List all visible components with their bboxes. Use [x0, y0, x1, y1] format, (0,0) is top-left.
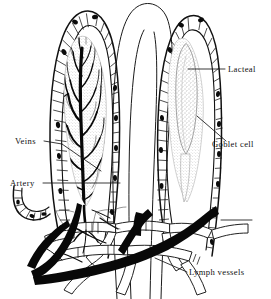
- label-veins: Veins: [15, 136, 36, 146]
- villus-diagram-figure: Lacteal Goblet cell Veins Artery Lymph v…: [0, 0, 271, 299]
- label-lymph-vessels: Lymph vessels: [189, 267, 245, 277]
- label-lacteal: Lacteal: [228, 64, 256, 74]
- label-goblet-cell: Goblet cell: [212, 139, 254, 149]
- villus-diagram-canvas: Lacteal Goblet cell Veins Artery Lymph v…: [0, 0, 271, 299]
- label-artery: Artery: [10, 178, 35, 188]
